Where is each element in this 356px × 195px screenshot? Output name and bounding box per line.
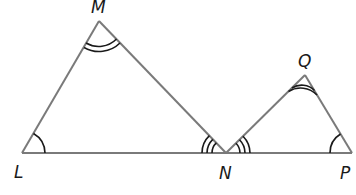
angle-mark-M-double-arc-icon xyxy=(84,39,120,52)
vertex-label-M: M xyxy=(91,0,106,17)
vertex-label-N: N xyxy=(219,163,232,183)
segment-LM xyxy=(22,21,99,153)
angle-mark-L-single-arc-icon xyxy=(34,134,46,154)
vertex-label-Q: Q xyxy=(298,51,311,71)
diagram-svg: M Q L N P xyxy=(0,0,356,195)
vertex-label-P: P xyxy=(340,163,351,183)
vertex-label-L: L xyxy=(14,162,23,182)
similar-triangles-diagram: M Q L N P xyxy=(0,0,356,195)
angle-mark-N-right-triple-arc-icon xyxy=(236,136,250,153)
segment-MN xyxy=(99,21,226,153)
angle-mark-P-single-arc-icon xyxy=(330,134,341,153)
angle-mark-N-left-triple-arc-icon xyxy=(202,136,216,153)
segment-QP xyxy=(305,75,352,153)
